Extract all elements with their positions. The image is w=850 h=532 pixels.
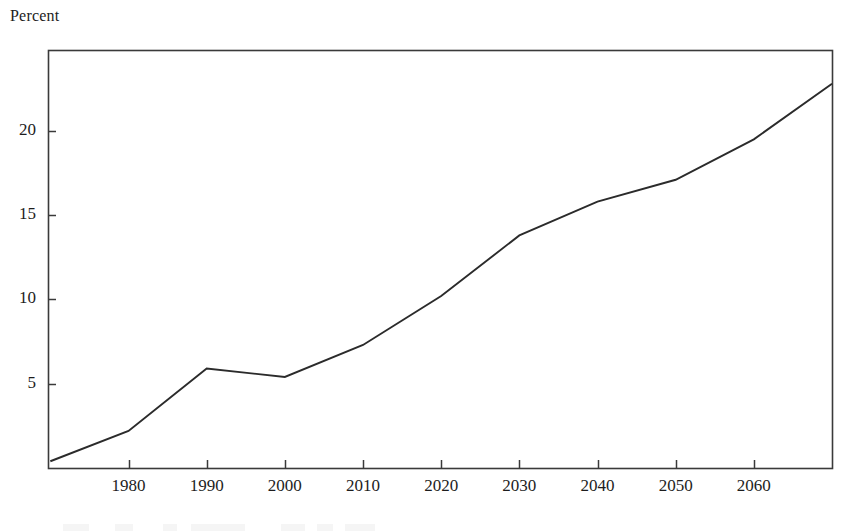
chart-figure: Percent 5101520 198019902000201020202030…: [0, 0, 850, 532]
y-tick-label-10: 10: [0, 288, 36, 308]
y-tick-label-20: 20: [0, 120, 36, 140]
x-tick-label-2030: 2030: [484, 476, 554, 496]
cropped-caption-artifact: [55, 524, 435, 531]
x-tick-label-2010: 2010: [328, 476, 398, 496]
tick-marks: [48, 132, 755, 469]
axes-frame: [49, 51, 833, 469]
data-line-series-percent: [50, 84, 832, 462]
x-tick-label-2000: 2000: [250, 476, 320, 496]
x-tick-label-2060: 2060: [719, 476, 789, 496]
y-tick-label-15: 15: [0, 204, 36, 224]
x-tick-label-2020: 2020: [406, 476, 476, 496]
plot-area: [0, 0, 850, 532]
x-tick-label-1980: 1980: [94, 476, 164, 496]
x-tick-label-2050: 2050: [641, 476, 711, 496]
x-tick-label-2040: 2040: [563, 476, 633, 496]
x-tick-label-1990: 1990: [172, 476, 242, 496]
y-tick-label-5: 5: [0, 373, 36, 393]
